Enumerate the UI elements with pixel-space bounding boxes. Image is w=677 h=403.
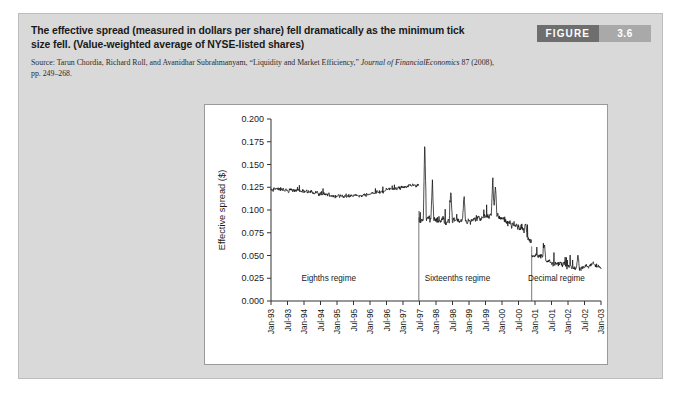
figure-title: The effective spread (measured in dollar… <box>31 24 483 52</box>
x-tick-label: Jan-03 <box>597 309 606 334</box>
regime-label: Sixteenths regime <box>425 274 491 283</box>
regime-divider-lines <box>419 217 532 301</box>
x-tick-label: Jan-98 <box>432 309 441 334</box>
plot-panel: 0.0000.0250.0500.0750.1000.1250.1500.175… <box>204 104 608 365</box>
effective-spread-chart: 0.0000.0250.0500.0750.1000.1250.1500.175… <box>205 105 607 364</box>
spread-series <box>271 147 601 271</box>
regime-annotations: Eighths regimeSixteenths regimeDecimal r… <box>301 274 585 283</box>
x-tick-label: Jul-02 <box>581 309 590 332</box>
x-tick-label: Jan-99 <box>465 309 474 334</box>
chart-y-axis: 0.0000.0250.0500.0750.1000.1250.1500.175… <box>241 114 271 306</box>
chart-x-axis: Jan-93Jul-93Jan-94Jul-94Jan-95Jul-95Jan-… <box>267 301 606 334</box>
x-tick-label: Jan-01 <box>531 309 540 334</box>
y-tick-label: 0.175 <box>241 137 264 147</box>
x-tick-label: Jul-99 <box>482 309 491 332</box>
y-tick-label: 0.125 <box>241 182 264 192</box>
y-tick-label: 0.075 <box>241 228 264 238</box>
x-tick-label: Jul-93 <box>284 309 293 332</box>
x-tick-label: Jan-93 <box>267 309 276 334</box>
chart-y-axis-title: Effective spread ($) <box>217 170 227 250</box>
x-tick-label: Jan-00 <box>498 309 507 334</box>
page-bottom-strip <box>0 391 677 403</box>
y-tick-label: 0.050 <box>241 251 264 261</box>
x-tick-label: Jul-95 <box>350 309 359 332</box>
figure-page: FIGURE 3.6 The effective spread (measure… <box>0 0 677 403</box>
x-tick-label: Jul-97 <box>416 309 425 332</box>
x-tick-label: Jan-95 <box>333 309 342 334</box>
x-tick-label: Jul-01 <box>548 309 557 332</box>
source-journal-name-2: Economics <box>425 58 459 67</box>
y-tick-label: 0.000 <box>241 296 264 306</box>
source-text-part1: Source: Tarun Chordia, Richard Roll, and… <box>31 58 361 67</box>
figure-card: FIGURE 3.6 The effective spread (measure… <box>18 13 663 379</box>
x-tick-label: Jan-97 <box>399 309 408 334</box>
x-tick-label: Jan-02 <box>564 309 573 334</box>
x-tick-label: Jan-96 <box>366 309 375 334</box>
y-tick-label: 0.150 <box>241 160 264 170</box>
regime-label: Decimal regime <box>528 274 585 283</box>
y-tick-label: 0.100 <box>241 205 264 215</box>
x-tick-label: Jul-94 <box>317 309 326 332</box>
x-tick-label: Jul-00 <box>515 309 524 332</box>
figure-card-inner: FIGURE 3.6 The effective spread (measure… <box>19 14 662 378</box>
x-tick-label: Jul-96 <box>383 309 392 332</box>
regime-label: Eighths regime <box>301 274 356 283</box>
y-tick-label: 0.025 <box>241 273 264 283</box>
x-tick-label: Jan-94 <box>300 309 309 334</box>
figure-header: The effective spread (measured in dollar… <box>19 14 662 79</box>
x-tick-label: Jul-98 <box>449 309 458 332</box>
figure-source: Source: Tarun Chordia, Richard Roll, and… <box>31 58 501 79</box>
source-journal-name: Journal of Financial <box>361 58 426 67</box>
y-axis-title: Effective spread ($) <box>217 170 227 250</box>
y-tick-label: 0.200 <box>241 114 264 124</box>
